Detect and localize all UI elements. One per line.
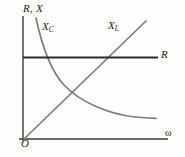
inductive-reactance-curve-label: XL — [108, 20, 119, 34]
resistance-curve-label: R — [161, 49, 168, 60]
plot-canvas — [0, 0, 185, 157]
xc-subscript: C — [49, 26, 54, 34]
curve-inductive-reactance — [24, 21, 146, 139]
origin-label: O — [21, 138, 29, 149]
y-axis-label: R, X — [23, 3, 43, 14]
capacitive-reactance-curve-label: XC — [42, 21, 54, 35]
reactance-figure: R, X O ω R XC XL — [0, 0, 185, 157]
xl-symbol: X — [108, 19, 115, 31]
xc-symbol: X — [42, 20, 49, 32]
xl-subscript: L — [115, 25, 119, 33]
x-axis-label: ω — [165, 128, 172, 138]
curve-capacitive-reactance — [36, 18, 156, 118]
